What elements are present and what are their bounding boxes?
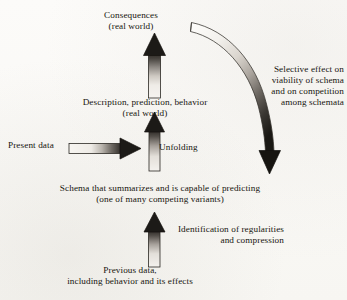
label-description-prediction-behavior: Description, prediction, behavior (real … (55, 97, 235, 119)
schema-feedback-diagram: Consequences (real world) Description, p… (0, 0, 347, 300)
label-previous-data: Previous data, including behavior and it… (40, 265, 220, 287)
label-present-data: Present data (8, 140, 68, 151)
arrowhead (144, 212, 165, 232)
label-unfolding: Unfolding (159, 142, 219, 153)
label-identification-of-regularities: Identification of regularities and compr… (168, 224, 284, 246)
arrowhead (120, 138, 141, 159)
identification-up-arrow (144, 212, 165, 267)
present-data-right-arrow (69, 138, 141, 159)
arrowhead (259, 151, 281, 175)
arrowhead (144, 33, 166, 56)
label-schema: Schema that summarizes and is capable of… (40, 183, 280, 205)
consequences-up-arrow (144, 33, 166, 98)
label-selective-effect: Selective effect on viability of schema … (240, 64, 344, 107)
label-consequences: Consequences (real world) (76, 10, 186, 32)
